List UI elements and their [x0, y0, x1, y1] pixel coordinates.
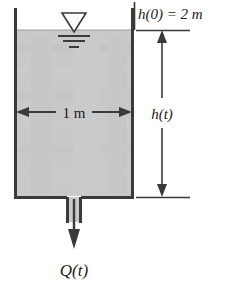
- flow-arrowhead: [68, 229, 80, 249]
- height-dimension: h(t): [151, 30, 173, 197]
- draining-tank-figure: 1 m h(t) h(0) = 2 m: [0, 0, 226, 288]
- height-arrowhead-top: [157, 30, 167, 43]
- width-dimension-label: 1 m: [63, 105, 86, 121]
- diagram-canvas: 1 m h(t) h(0) = 2 m: [0, 0, 226, 288]
- free-surface-triangle: [62, 13, 86, 32]
- flow-rate-label: Q(t): [60, 261, 89, 280]
- height-variable-label: h(t): [151, 106, 173, 123]
- height-arrowhead-bottom: [157, 184, 167, 197]
- initial-height-label: h(0) = 2 m: [138, 6, 203, 23]
